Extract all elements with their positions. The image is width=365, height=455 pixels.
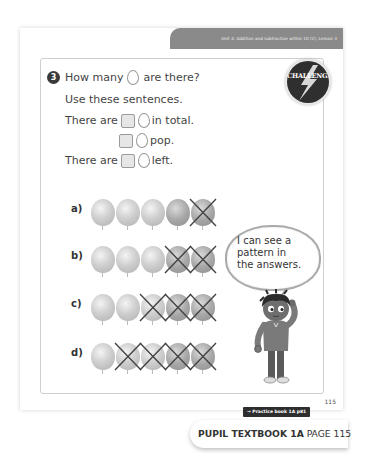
balloon-outline-icon bbox=[127, 70, 139, 85]
instruction-text: Use these sentences. bbox=[65, 93, 183, 106]
practice-book-link[interactable]: → Practice book 1A p81 bbox=[243, 407, 310, 417]
question-panel: 3 How many are there? Use these sentence… bbox=[40, 58, 324, 394]
popped-balloon-icon bbox=[141, 294, 165, 321]
challenge-badge: CHALLENGE bbox=[287, 61, 329, 103]
balloon-icon bbox=[91, 246, 115, 273]
row-label-d: d) bbox=[71, 347, 83, 358]
speech-line-2: pattern in bbox=[237, 247, 313, 259]
prompt-text-after: are there? bbox=[143, 71, 199, 84]
sentence-1: There are in total. bbox=[65, 113, 194, 128]
answer-box-3[interactable] bbox=[121, 154, 135, 168]
popped-balloon-icon bbox=[166, 246, 190, 273]
row-a: a) bbox=[41, 199, 241, 229]
sentence-2: pop. bbox=[118, 133, 174, 148]
sentence-2-after: pop. bbox=[150, 134, 174, 147]
cross-icon bbox=[188, 292, 218, 323]
speech-bubble-text: I can see a pattern in the answers. bbox=[237, 235, 313, 271]
lightning-bolt-icon bbox=[287, 61, 329, 103]
sentence-3: There are left. bbox=[65, 153, 173, 168]
sentence-1-before: There are bbox=[65, 114, 118, 127]
balloon-icon bbox=[141, 199, 165, 226]
row-c: c) bbox=[41, 294, 241, 324]
popped-balloon-icon bbox=[166, 294, 190, 321]
popped-balloon-icon bbox=[191, 199, 215, 226]
popped-balloon-icon bbox=[141, 343, 165, 370]
cross-icon bbox=[188, 244, 218, 275]
row-label-a: a) bbox=[71, 203, 82, 214]
popped-balloon-icon bbox=[166, 343, 190, 370]
instruction-label: Use these sentences. bbox=[65, 93, 183, 106]
row-d: d) bbox=[41, 343, 241, 373]
prompt-text-before: How many bbox=[65, 71, 123, 84]
balloon-outline-icon bbox=[136, 133, 148, 148]
balloon-icon bbox=[91, 199, 115, 226]
speech-bubble: I can see a pattern in the answers. bbox=[225, 225, 321, 291]
balloon-icon bbox=[116, 199, 140, 226]
balloon-icon bbox=[141, 246, 165, 273]
answer-box-2[interactable] bbox=[119, 134, 133, 148]
popped-balloon-icon bbox=[191, 294, 215, 321]
row-label-b: b) bbox=[71, 250, 83, 261]
speech-line-1: I can see a bbox=[237, 235, 313, 247]
balloon-icon bbox=[91, 343, 115, 370]
book-reference-label: PUPIL TEXTBOOK 1A PAGE 115 bbox=[190, 420, 348, 448]
balloon-outline-icon bbox=[138, 153, 150, 168]
balloon-outline-icon bbox=[138, 113, 150, 128]
question-prompt: How many are there? bbox=[65, 70, 200, 85]
cross-icon bbox=[188, 197, 218, 228]
balloon-icon bbox=[91, 294, 115, 321]
page-number: 115 bbox=[325, 398, 336, 405]
balloon-icon bbox=[116, 294, 140, 321]
sentence-1-after: in total. bbox=[152, 114, 194, 127]
book-title: PUPIL TEXTBOOK 1A bbox=[198, 428, 304, 439]
balloon-icon bbox=[116, 246, 140, 273]
answer-box-1[interactable] bbox=[121, 114, 135, 128]
popped-balloon-icon bbox=[116, 343, 140, 370]
unit-header-bar: Unit 4: Addition and subtraction within … bbox=[170, 28, 343, 49]
unit-title: Unit 4: Addition and subtraction within … bbox=[221, 36, 337, 41]
row-label-c: c) bbox=[71, 298, 82, 309]
row-b: b) bbox=[41, 246, 241, 276]
popped-balloon-icon bbox=[191, 343, 215, 370]
balloon-icon bbox=[166, 199, 190, 226]
question-number-badge: 3 bbox=[47, 71, 60, 84]
sentence-3-before: There are bbox=[65, 154, 118, 167]
speech-line-3: the answers. bbox=[237, 259, 313, 271]
boy-character-illustration bbox=[246, 287, 308, 387]
popped-balloon-icon bbox=[191, 246, 215, 273]
textbook-page: Unit 4: Addition and subtraction within … bbox=[20, 28, 343, 410]
challenge-label: CHALLENGE bbox=[287, 72, 329, 80]
sentence-3-after: left. bbox=[152, 154, 173, 167]
book-page: PAGE 115 bbox=[307, 428, 351, 439]
cross-icon bbox=[188, 341, 218, 372]
